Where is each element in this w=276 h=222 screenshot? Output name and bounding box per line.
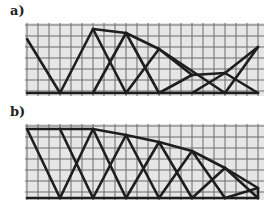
truss-diagram — [0, 0, 276, 222]
grid-background — [25, 124, 264, 200]
panel-a — [25, 23, 264, 96]
panel-b — [25, 124, 264, 200]
grid-background — [25, 23, 264, 96]
